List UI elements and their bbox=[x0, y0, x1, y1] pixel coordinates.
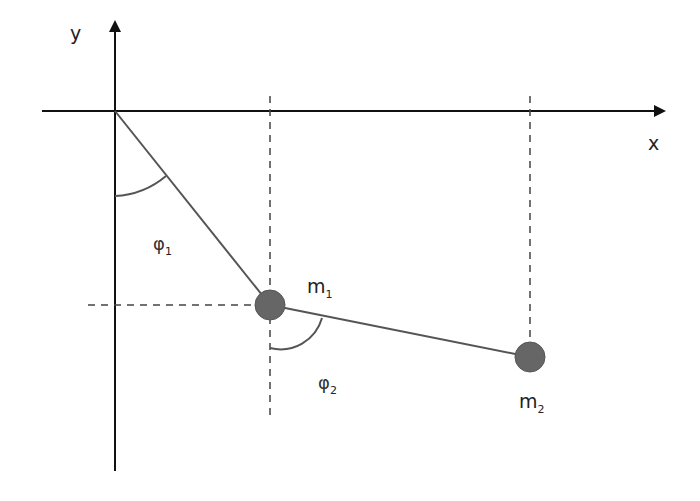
mass-1-label: m1 bbox=[307, 275, 333, 301]
phi1-arc bbox=[115, 176, 166, 196]
rod-1 bbox=[115, 111, 270, 305]
rod-2 bbox=[270, 305, 530, 357]
angle-arcs bbox=[115, 176, 322, 349]
y-axis-label: y bbox=[70, 22, 81, 44]
axes: x y bbox=[42, 22, 664, 471]
phi-2-label: φ2 bbox=[318, 372, 337, 397]
dashed-guides bbox=[88, 96, 530, 420]
double-pendulum-diagram: x y m1 m2 bbox=[0, 0, 700, 501]
x-axis-label: x bbox=[648, 132, 659, 154]
mass-2-label: m2 bbox=[519, 390, 545, 416]
mass-1-bob bbox=[255, 290, 285, 320]
mass-2-bob bbox=[515, 342, 545, 372]
labels: m1 m2 φ1 φ2 bbox=[153, 233, 545, 416]
phi-1-label: φ1 bbox=[153, 233, 172, 258]
rods bbox=[115, 111, 530, 357]
phi2-arc bbox=[270, 318, 322, 349]
